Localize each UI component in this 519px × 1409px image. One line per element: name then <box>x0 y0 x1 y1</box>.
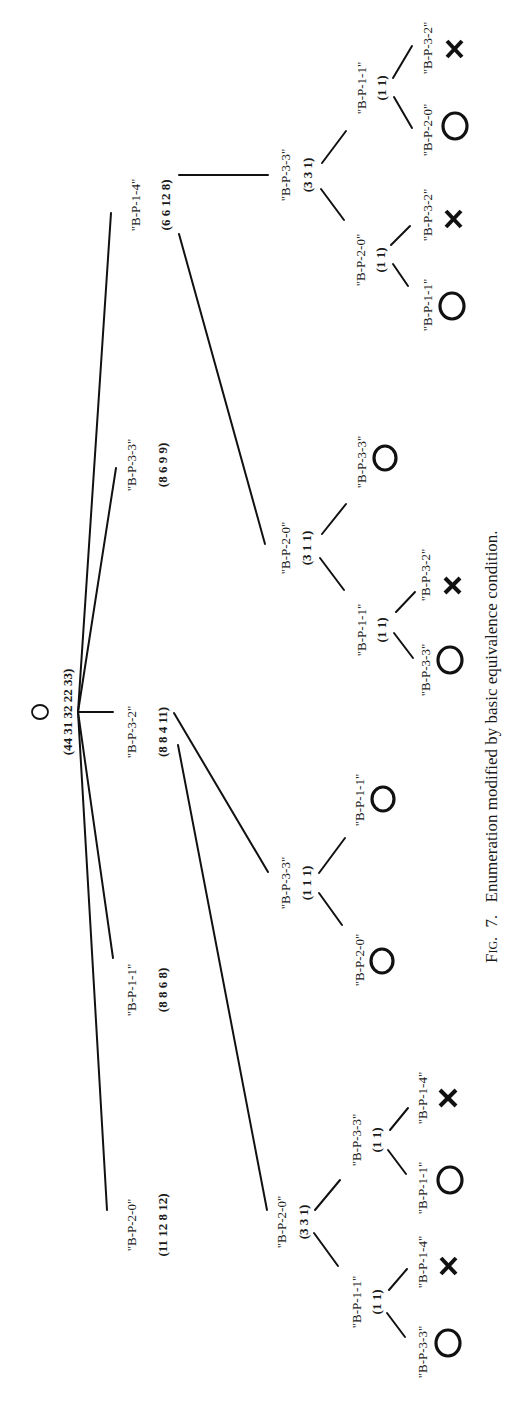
node-counts: (3 3 1) <box>300 158 315 193</box>
enumeration-tree-diagram: (44 31 32 22 33) "B-P-2-0" (11 12 8 12) … <box>0 0 519 1409</box>
edge-a2-to-bp11 <box>314 1233 338 1266</box>
edge-root-to-bp33 <box>78 468 116 712</box>
node-counts: (3 1 1) <box>299 531 314 566</box>
node-counts: (1 1) <box>373 248 388 273</box>
edge-c2-to-bp11 <box>319 838 345 873</box>
root-counts: (44 31 32 22 33) <box>60 669 75 756</box>
subtree-bp14: "B-P-3-3" (3 3 1) "B-P-1-1" (1 1) "B-P-3… <box>278 22 467 697</box>
node-label: "B-P-2-0" <box>353 234 368 287</box>
node-counts: (1 1) <box>369 1128 384 1153</box>
node-label: "B-P-1-1" <box>124 964 139 1017</box>
success-icon <box>371 949 393 973</box>
edge-e3c-to-bp20 <box>394 97 412 128</box>
failure-icon <box>447 41 462 57</box>
failure-icon <box>441 1258 456 1274</box>
level1-node-bp11: "B-P-1-1" (8 8 6 8) <box>124 964 170 1017</box>
edge-root-to-bp20 <box>78 712 107 1210</box>
node-counts: (11 12 8 12) <box>155 1193 170 1256</box>
edge-root-to-bp14 <box>78 213 111 712</box>
node-label: "B-P-1-1" <box>354 62 369 115</box>
node-counts: (1 1) <box>374 76 389 101</box>
node-counts: (8 8 6 8) <box>155 968 170 1012</box>
level1-node-bp20: "B-P-2-0" (11 12 8 12) <box>124 1193 170 1256</box>
leaf-label: "B-P-3-2" <box>420 22 435 75</box>
caption-text: Enumeration modified by basic equivalenc… <box>482 530 501 902</box>
success-icon <box>374 446 396 470</box>
figure-caption: Fig. 7. Enumeration modified by basic eq… <box>482 530 501 963</box>
subtree-bp32: "B-P-3-3" (1 1 1) "B-P-1-1" "B-P-2-0" <box>278 774 394 987</box>
node-label: "B-P-3-3" <box>124 439 139 492</box>
edge-e2a-to-bp33 <box>322 504 346 534</box>
leaf-label: "B-P-1-4" <box>415 1072 430 1125</box>
success-icon <box>443 113 467 139</box>
root-success-icon <box>32 705 48 719</box>
node-label: "B-P-3-3" <box>278 857 293 910</box>
node-counts: (8 6 9 9) <box>155 443 170 487</box>
node-counts: (1 1) <box>369 1290 384 1315</box>
edge-e2b-to-bp11 <box>322 131 346 163</box>
edge-a3x-to-bp14 <box>389 1269 407 1290</box>
node-counts: (6 6 12 8) <box>158 180 173 231</box>
edge-e3b-to-bp11 <box>393 264 408 286</box>
edge-e3a-to-bp33 <box>394 633 413 658</box>
edge-bp14-to-bp20 <box>179 234 265 544</box>
node-label: "B-P-1-1" <box>349 1276 364 1329</box>
node-counts: (1 1) <box>374 618 389 643</box>
node-label: "B-P-1-1" <box>354 604 369 657</box>
edge-a3x-to-bp33 <box>387 1313 405 1337</box>
leaf-label: "B-P-1-1" <box>352 774 367 827</box>
leaf-label: "B-P-1-1" <box>415 1162 430 1215</box>
node-counts: (3 3 1) <box>296 1205 311 1240</box>
leaf-label: "B-P-3-2" <box>418 549 433 602</box>
leaf-label: "B-P-3-3" <box>354 436 369 489</box>
edge-root-to-bp11 <box>78 712 113 958</box>
edge-e3a-to-bp32 <box>396 592 415 612</box>
edge-e2b-to-bp20 <box>321 189 344 220</box>
node-counts: (8 8 4 11) <box>155 707 170 757</box>
edge-a2-to-bp33 <box>315 1180 340 1210</box>
failure-icon <box>446 211 461 227</box>
subtree-a2: "B-P-2-0" (3 3 1) "B-P-3-3" (1 1) "B-P-1… <box>274 1072 462 1379</box>
level1-node-bp14: "B-P-1-4" (6 6 12 8) <box>128 179 173 232</box>
node-label: "B-P-3-3" <box>349 1114 364 1167</box>
edge-e3c-to-bp32 <box>393 46 412 78</box>
leaf-label: "B-P-3-3" <box>418 644 433 697</box>
node-label: "B-P-2-0" <box>274 1196 289 1249</box>
failure-icon <box>440 1090 456 1106</box>
caption-number: 7. <box>482 915 501 928</box>
leaf-label: "B-P-1-4" <box>415 1236 430 1289</box>
edge-a3y-to-bp14 <box>390 1108 408 1130</box>
node-label: "B-P-2-0" <box>278 522 293 575</box>
level1-node-bp33: "B-P-3-3" (8 6 9 9) <box>124 439 170 492</box>
success-icon <box>438 647 462 673</box>
success-icon <box>440 293 464 319</box>
node-label: "B-P-3-3" <box>278 149 293 202</box>
leaf-label: "B-P-3-2" <box>420 189 435 242</box>
failure-icon <box>445 578 460 593</box>
level1-node-bp32: "B-P-3-2" (8 8 4 11) <box>124 706 170 759</box>
caption-fig-label: Fig. <box>482 937 501 963</box>
success-icon <box>372 787 394 811</box>
edge-bp32-to-bp20 <box>178 745 267 1210</box>
node-label: "B-P-1-4" <box>128 179 143 232</box>
edge-e3b-to-bp32 <box>391 226 410 245</box>
node-label: "B-P-2-0" <box>124 1199 139 1252</box>
edge-c2-to-bp20 <box>319 893 342 925</box>
leaf-label: "B-P-2-0" <box>352 934 367 987</box>
success-icon <box>436 1330 460 1356</box>
svg-text:Fig. 7. Enumeratio: Fig. 7. Enumeration modified by basic eq… <box>482 530 501 963</box>
node-counts: (1 1 1) <box>299 866 314 901</box>
root-node: (44 31 32 22 33) <box>32 669 75 756</box>
leaf-label: "B-P-2-0" <box>420 104 435 157</box>
leaf-label: "B-P-3-3" <box>415 1326 430 1379</box>
node-label: "B-P-3-2" <box>124 706 139 759</box>
success-icon <box>438 1167 462 1193</box>
edge-a3y-to-bp11 <box>388 1150 406 1174</box>
edge-e2a-to-bp11 <box>320 558 344 590</box>
leaf-label: "B-P-1-1" <box>420 279 435 332</box>
